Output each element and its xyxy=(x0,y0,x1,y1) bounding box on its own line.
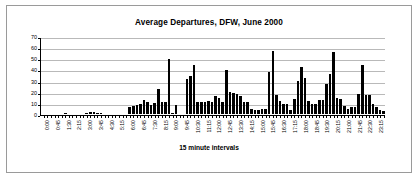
x-axis-tick-label: 2:15 xyxy=(77,120,82,130)
y-axis-tickmark xyxy=(38,105,40,106)
x-axis-tickmarks xyxy=(42,115,385,118)
x-axis-tick-label: 12:00 xyxy=(217,120,222,133)
x-axis-tick-label: 18:00 xyxy=(304,120,309,133)
bar-series xyxy=(42,37,385,114)
y-axis-tick-label: 0 xyxy=(34,113,37,118)
x-axis-tick-label: 16:30 xyxy=(282,120,287,133)
x-axis-tick-label: 9:45 xyxy=(185,120,190,130)
x-axis-tick-label: 20:15 xyxy=(336,120,341,133)
x-axis-tick-label: 17:15 xyxy=(293,120,298,133)
y-axis-tickmark xyxy=(38,116,40,117)
x-axis-tick-label: 4:30 xyxy=(110,120,115,130)
y-axis-tickmark xyxy=(38,94,40,95)
x-axis-tick-label: 21:45 xyxy=(358,120,363,133)
x-axis-tick-label: 9:00 xyxy=(174,120,179,130)
y-axis-tickmark xyxy=(38,83,40,84)
x-axis-tick-label: 18:45 xyxy=(315,120,320,133)
x-axis-tick-label: 5:15 xyxy=(120,120,125,130)
x-axis-tickmark xyxy=(382,115,386,118)
x-axis-tick-label: 15:00 xyxy=(261,120,266,133)
chart-figure: Average Departures, DFW, June 2000 01020… xyxy=(6,5,412,173)
y-axis-tick-label: 70 xyxy=(31,35,37,40)
y-axis-tick-label: 20 xyxy=(31,91,37,96)
x-axis-tick-label: 15:45 xyxy=(271,120,276,133)
x-axis-tick-label: 8:15 xyxy=(164,120,169,130)
y-axis-tick-label: 10 xyxy=(31,102,37,107)
x-axis-tick-label: 10:30 xyxy=(196,120,201,133)
x-axis-tick-label: 3:00 xyxy=(88,120,93,130)
plot-area xyxy=(40,38,385,116)
y-axis-tick-label: 50 xyxy=(31,58,37,63)
bar-slot xyxy=(382,37,386,114)
x-axis-tick-label: 3:45 xyxy=(99,120,104,130)
x-axis-tick-label: 11:15 xyxy=(207,120,212,133)
x-axis-tick-label: 0:45 xyxy=(56,120,61,130)
x-axis-tick-label: 6:00 xyxy=(131,120,136,130)
y-axis-tick-label: 60 xyxy=(31,46,37,51)
x-axis-title: 15 minute intervals xyxy=(7,144,411,151)
x-axis-tick-label: 12:45 xyxy=(228,120,233,133)
x-axis-tick-label: 21:00 xyxy=(347,120,352,133)
x-axis-labels: 0:000:451:302:153:003:454:305:156:006:45… xyxy=(41,120,386,142)
x-axis-tick-label: 13:30 xyxy=(239,120,244,133)
x-axis-tick-label: 23:15 xyxy=(379,120,384,133)
y-axis-tickmark xyxy=(38,49,40,50)
y-axis-tick-label: 30 xyxy=(31,80,37,85)
x-axis-tick-label: 14:15 xyxy=(250,120,255,133)
x-axis-tick-label: 1:30 xyxy=(67,120,72,130)
x-axis-tick-label: 6:45 xyxy=(142,120,147,130)
y-axis-tickmark xyxy=(38,60,40,61)
chart-title: Average Departures, DFW, June 2000 xyxy=(7,18,411,27)
y-axis-tickmark xyxy=(38,71,40,72)
y-axis-tickmark xyxy=(38,38,40,39)
x-axis-tick-label: 22:30 xyxy=(368,120,373,133)
x-axis-tick-label: 0:00 xyxy=(45,120,50,130)
plot-wrap: 010203040506070 xyxy=(40,38,385,116)
y-axis-tick-label: 40 xyxy=(31,69,37,74)
x-axis-tick-label: 7:30 xyxy=(153,120,158,130)
x-axis-tick-label: 19:30 xyxy=(325,120,330,133)
bar xyxy=(382,111,385,114)
